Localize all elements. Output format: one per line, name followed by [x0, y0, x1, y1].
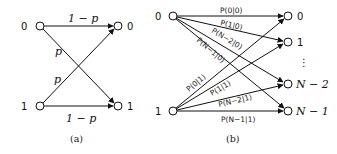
- node-b-output-n2: [284, 80, 292, 88]
- channel-diagrams: 0 1 0 1 1 − p p p 1 − p (a) 0 1 0 1 ⋮: [0, 0, 337, 154]
- node-a-output-0: [114, 22, 122, 30]
- label-a-edge-1-1: 1 − p: [66, 112, 96, 125]
- node-a-input-0: [36, 22, 44, 30]
- node-b-input-0: [169, 12, 177, 20]
- node-b-output-1: [284, 38, 292, 46]
- label-b-input-1: 1: [155, 106, 161, 117]
- caption-a: (a): [70, 133, 83, 144]
- caption-b: (b): [226, 133, 240, 144]
- figure-b-discrete-channel: 0 1 0 1 ⋮ N − 2 N − 1 P(0|0) P(1|0) P(N−…: [155, 6, 329, 144]
- label-a-output-1: 1: [127, 101, 133, 112]
- label-a-edge-0-1: p: [55, 45, 62, 58]
- label-a-edge-0-0: 1 − p: [68, 12, 98, 25]
- label-b-edge-1-0: P(0|1): [185, 72, 208, 93]
- node-b-input-1: [169, 107, 177, 115]
- label-a-input-0: 0: [21, 21, 27, 32]
- label-b-output-ellipsis: ⋮: [299, 57, 309, 68]
- label-b-input-0: 0: [155, 11, 161, 22]
- node-b-output-0: [284, 12, 292, 20]
- node-a-input-1: [36, 102, 44, 110]
- node-a-output-1: [114, 102, 122, 110]
- label-b-output-1: 1: [297, 37, 303, 48]
- figure-a-binary-symmetric-channel: 0 1 0 1 1 − p p p 1 − p (a): [21, 12, 133, 144]
- label-b-edge-1-n1: P(N−1|1): [221, 115, 255, 124]
- label-b-output-0: 0: [297, 11, 303, 22]
- label-b-output-n2: N − 2: [295, 78, 329, 91]
- node-b-output-n1: [284, 107, 292, 115]
- label-b-edge-0-1: P(1|0): [220, 18, 244, 32]
- label-a-output-0: 0: [127, 21, 133, 32]
- label-b-edge-0-0: P(0|0): [220, 6, 243, 15]
- label-a-input-1: 1: [21, 101, 27, 112]
- label-b-edge-1-1: P(1|1): [208, 78, 232, 97]
- label-b-output-n1: N − 1: [295, 105, 329, 118]
- label-b-edge-1-n2: P(N−2|1): [217, 92, 253, 109]
- label-a-edge-1-0: p: [54, 73, 61, 86]
